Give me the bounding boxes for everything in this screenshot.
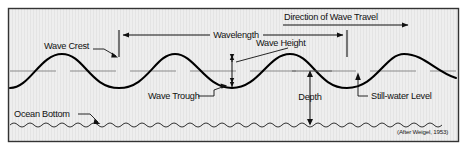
wavelength-label: Wavelength [213,30,259,40]
depth-label: Depth [298,92,321,102]
direction-of-wave-travel-label: Direction of Wave Travel [284,12,378,22]
still-water-level-label: Still-water Level [371,91,432,101]
wave-diagram-canvas: Wavelength Direction of Wave Travel Wave… [0,0,467,150]
wave-crest-label: Wave Crest [44,41,90,51]
wave-diagram-figure: Wavelength Direction of Wave Travel Wave… [0,0,467,150]
wave-trough-label: Wave Trough [148,91,200,101]
diagram-panel [9,9,459,142]
wave-height-label: Wave Height [256,38,306,48]
attribution-text: (After Weigel, 1953) [397,128,448,135]
ocean-bottom-label: Ocean Bottom [14,109,70,119]
